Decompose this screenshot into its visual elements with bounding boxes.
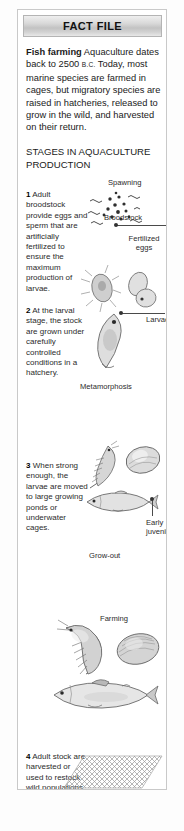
step-2-body: At the larval stage, the stock are grown… (26, 306, 84, 377)
label-metamorphosis: Metamorphosis (80, 382, 132, 391)
juvenile-fish-illustration (81, 488, 159, 514)
intro-era: B.C. (82, 61, 96, 68)
leader-line-fertilized-eggs (116, 225, 167, 226)
intro-body-after: Today, most marine species are farmed in… (26, 59, 160, 132)
step-1-text: 1 Adult broodstock provide eggs and sper… (26, 190, 88, 294)
adult-oyster-illustration (114, 628, 162, 670)
larval-fish-illustration (84, 310, 138, 374)
label-broodstock: Broodstock (104, 213, 142, 222)
section-heading: STAGES IN AQUACULTURE PRODUCTION (26, 146, 162, 171)
intro-paragraph: Fish farming Aquaculture dates back to 2… (26, 46, 162, 134)
label-farming: Farming (100, 614, 128, 623)
page-title: FACT FILE (63, 20, 122, 32)
label-spawning: Spawning (108, 178, 141, 187)
intro-lead: Fish farming (26, 47, 82, 57)
fact-file-panel: FACT FILE Fish farming Aquaculture dates… (17, 9, 167, 790)
adult-salmon-illustration (48, 677, 160, 711)
juvenile-shrimp-illustration (78, 440, 124, 490)
step-1-body: Adult broodstock provide eggs and sperm … (26, 190, 87, 293)
label-early-juveniles: Early juveniles (146, 518, 167, 537)
eggs-and-sperm-illustration (88, 185, 148, 235)
label-larvae: Larvae (146, 315, 167, 324)
label-grow-out: Grow-out (89, 551, 120, 560)
step-2-text: 2 At the larval stage, the stock are gro… (26, 306, 88, 379)
fact-file-page: FACT FILE Fish farming Aquaculture dates… (0, 0, 184, 831)
leader-dot-fertilized (114, 223, 118, 227)
leader-line-early-juveniles (152, 499, 153, 516)
juvenile-oyster-illustration (123, 442, 163, 478)
fishing-net-illustration (62, 754, 166, 790)
fact-file-header: FACT FILE (23, 15, 162, 37)
label-fertilized-eggs: Fertilized eggs (124, 234, 164, 253)
leader-dot-early-juveniles (150, 497, 154, 501)
